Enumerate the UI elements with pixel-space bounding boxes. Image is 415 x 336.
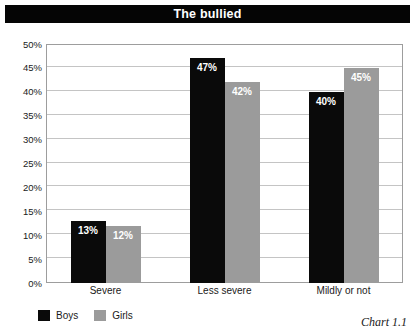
legend-label: Boys — [56, 311, 78, 321]
y-axis-tick-label: 30% — [0, 135, 42, 145]
chart-caption: Chart 1.1 — [361, 316, 407, 328]
gridline — [47, 138, 402, 139]
gridline — [47, 90, 402, 91]
y-axis-tick-label: 40% — [0, 87, 42, 97]
x-axis-tick-label: Severe — [90, 286, 122, 296]
legend-entry-girls: Girls — [94, 310, 133, 321]
y-axis-tick-label: 20% — [0, 183, 42, 193]
x-axis-tick-label: Less severe — [198, 286, 252, 296]
gridline — [47, 162, 402, 163]
plot-area — [46, 44, 403, 283]
x-axis-tick-label: Mildly or not — [317, 286, 371, 296]
gridline — [47, 66, 402, 67]
gridline — [47, 209, 402, 210]
gridline — [47, 257, 402, 258]
y-axis-tick-label: 15% — [0, 207, 42, 217]
gridline — [47, 185, 402, 186]
legend-swatch-icon — [38, 310, 50, 321]
chart-title: The bullied — [173, 8, 241, 21]
y-axis-tick-label: 35% — [0, 111, 42, 121]
y-axis-tick-label: 5% — [0, 254, 42, 264]
y-axis-tick-label: 10% — [0, 230, 42, 240]
legend-entry-boys: Boys — [38, 310, 78, 321]
y-axis-tick-label: 25% — [0, 159, 42, 169]
y-axis-tick-label: 0% — [0, 278, 42, 288]
legend-swatch-icon — [94, 310, 106, 321]
y-axis-tick-label: 45% — [0, 63, 42, 73]
chart-title-bar: The bullied — [5, 5, 410, 23]
chart-legend: BoysGirls — [38, 310, 133, 321]
gridline — [47, 114, 402, 115]
x-axis: SevereLess severeMildly or not — [46, 286, 403, 302]
y-axis-tick-label: 50% — [0, 39, 42, 49]
y-axis: 0%5%10%15%20%25%30%35%40%45%50% — [0, 44, 42, 283]
gridline — [47, 233, 402, 234]
legend-label: Girls — [112, 311, 133, 321]
